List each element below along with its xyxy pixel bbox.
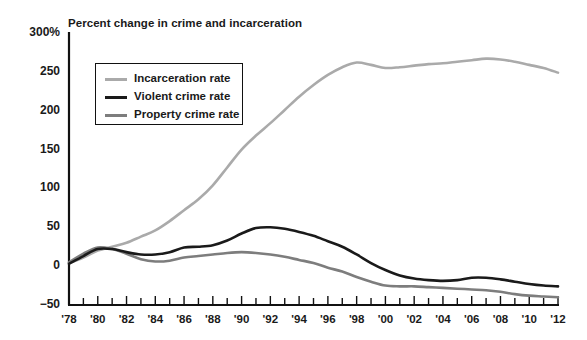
x-axis-tick-label: '02 — [406, 313, 422, 325]
x-axis-tick-label: '04 — [435, 313, 451, 325]
x-axis-tick-label: '12 — [550, 313, 566, 325]
plot-area — [0, 0, 587, 340]
legend-color-swatch — [105, 96, 127, 99]
y-axis-tick-label: 50 — [14, 219, 60, 233]
legend-label: Incarceration rate — [134, 73, 231, 85]
y-axis-tick-label: 0 — [14, 258, 60, 272]
legend-item: Violent crime rate — [105, 88, 230, 106]
legend-item: Incarceration rate — [105, 70, 231, 88]
chart-title: Percent change in crime and incarceratio… — [68, 17, 302, 29]
chart-legend: Incarceration rateViolent crime rateProp… — [95, 63, 243, 125]
x-axis-tick-label: '00 — [378, 313, 394, 325]
x-axis-tick-label: '92 — [263, 313, 279, 325]
crime-incarceration-line-chart: Percent change in crime and incarceratio… — [0, 0, 587, 340]
y-axis-tick-label: 100 — [14, 180, 60, 194]
x-axis-tick-label: '08 — [493, 313, 509, 325]
x-axis-tick-label: '88 — [205, 313, 221, 325]
legend-color-swatch — [105, 78, 127, 81]
x-axis-tick-label: '96 — [320, 313, 336, 325]
legend-color-swatch — [105, 114, 127, 117]
x-axis-tick-label: '80 — [90, 313, 106, 325]
legend-item: Property crime rate — [105, 106, 239, 124]
y-axis-tick-label: −50 — [14, 297, 60, 311]
y-axis-tick-label: 150 — [14, 142, 60, 156]
legend-label: Property crime rate — [134, 109, 239, 121]
y-axis-tick-label: 300% — [14, 25, 60, 39]
x-axis-tick-label: '82 — [119, 313, 135, 325]
x-axis-tick-label: '78 — [61, 313, 77, 325]
x-axis-tick-label: '98 — [349, 313, 365, 325]
x-axis-tick-label: '94 — [291, 313, 307, 325]
x-axis-tick-label: '10 — [521, 313, 537, 325]
x-axis-tick-label: '86 — [176, 313, 192, 325]
x-axis-tick-label: '06 — [464, 313, 480, 325]
y-axis-tick-label: 200 — [14, 103, 60, 117]
x-axis-tick-label: '84 — [148, 313, 164, 325]
legend-label: Violent crime rate — [134, 91, 230, 103]
x-axis-tick-label: '90 — [234, 313, 250, 325]
y-axis-tick-label: 250 — [14, 64, 60, 78]
